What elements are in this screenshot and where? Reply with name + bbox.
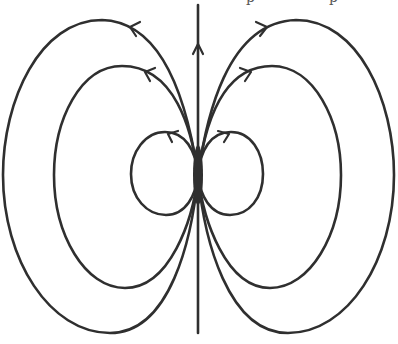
center-pinch xyxy=(193,145,203,205)
dipole-field-diagram xyxy=(0,0,398,344)
inner-right-loop xyxy=(198,132,263,215)
outer-right-loop xyxy=(198,20,394,333)
inner-left-arrow-icon xyxy=(168,131,178,142)
middle-left-loop xyxy=(54,66,198,288)
inner-left-loop xyxy=(131,132,198,215)
inner-right-arrow-icon xyxy=(218,131,229,142)
middle-right-loop xyxy=(198,66,341,288)
outer-left-loop xyxy=(3,20,198,333)
